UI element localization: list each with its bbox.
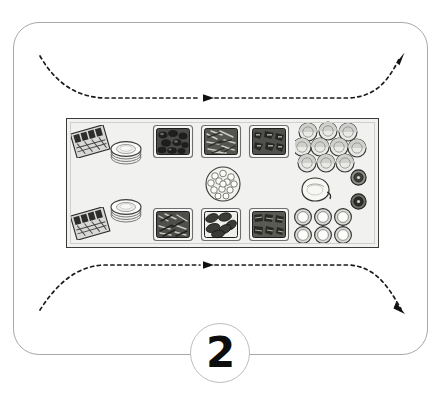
pitcher-icon <box>299 175 333 205</box>
cup-grid-lower <box>293 207 355 245</box>
food-tray-icon <box>200 124 242 159</box>
step-number-text: 2 <box>206 332 234 374</box>
step-number-badge: 2 <box>190 323 250 383</box>
diagram-title: Buffet service line layout <box>0 0 1 1</box>
cutlery-tray-icon <box>69 207 111 240</box>
urn-lid-icon <box>350 169 367 186</box>
plate-stack-icon <box>108 191 144 225</box>
diagram-canvas: 2 Buffet service line layout <box>0 0 441 404</box>
food-tray-icon <box>248 124 290 159</box>
plate-stack-icon <box>108 133 144 167</box>
buffet-table <box>66 118 379 248</box>
food-tray-icon <box>200 207 242 242</box>
food-tray-icon <box>152 124 194 159</box>
glass-grid-upper <box>295 121 375 173</box>
cutlery-tray-icon <box>69 125 111 158</box>
food-tray-icon <box>152 207 194 242</box>
food-tray-icon <box>248 207 290 242</box>
salad-bowl-icon <box>201 165 245 203</box>
